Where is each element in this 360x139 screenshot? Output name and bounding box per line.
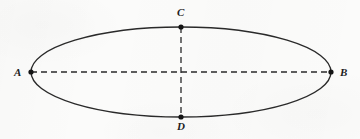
vertex-label-b: B [340, 67, 347, 78]
vertex-dot-c [178, 24, 183, 29]
vertex-dot-a [28, 69, 33, 74]
vertex-label-c: C [177, 7, 184, 18]
vertex-dot-d [178, 114, 183, 119]
vertex-label-d: D [177, 121, 185, 132]
ellipse-diagram-canvas [0, 0, 360, 139]
vertex-dot-b [328, 69, 333, 74]
ellipse-figure: A B C D [0, 0, 360, 139]
vertex-label-a: A [14, 67, 21, 78]
